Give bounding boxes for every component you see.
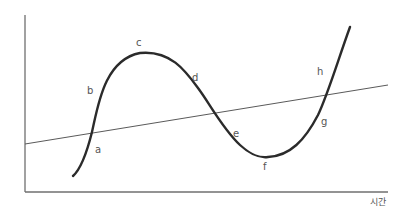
point-label-c: c [136,37,142,48]
point-label-g: g [321,116,327,127]
trend-line [25,85,388,144]
point-label-e: e [233,128,239,139]
cycle-diagram: a b c d e f g h 시간 [0,0,410,216]
cycle-curve [73,27,350,176]
point-label-h: h [317,66,323,77]
x-axis-label: 시간 [370,197,386,207]
point-label-d: d [192,72,198,83]
point-label-f: f [263,161,267,172]
point-label-a: a [95,144,101,155]
point-label-b: b [87,85,93,96]
